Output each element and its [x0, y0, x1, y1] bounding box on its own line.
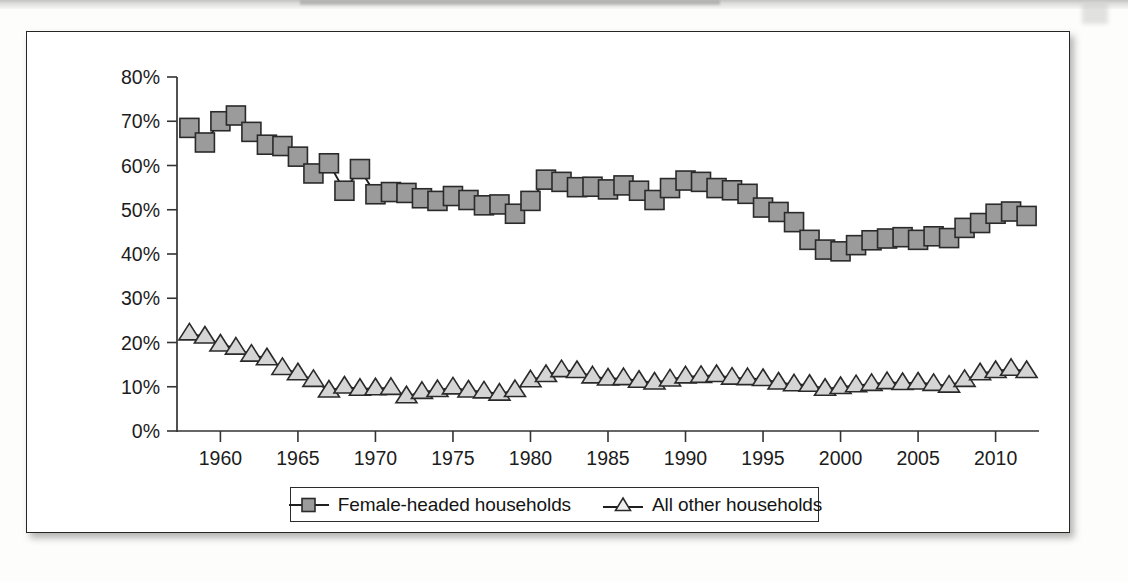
x-axis-tick-label: 2005: [896, 447, 940, 469]
plot-area: 0%10%20%30%40%50%60%70%80% 1960196519701…: [27, 32, 1071, 534]
data-point-marker: [319, 154, 338, 173]
data-point-marker: [335, 181, 354, 200]
x-axis-tick-label: 1965: [276, 447, 320, 469]
y-axis-tick-label: 0%: [132, 420, 160, 442]
data-point-marker: [753, 369, 774, 386]
open-triangle-marker-icon: [601, 495, 645, 515]
x-axis-tick-label: 2000: [819, 447, 863, 469]
legend-item-all-other-households: All other households: [601, 494, 822, 516]
y-axis-tick-label: 80%: [121, 66, 160, 88]
chart-figure-frame: 0%10%20%30%40%50%60%70%80% 1960196519701…: [26, 31, 1070, 533]
x-axis: 1960196519701975198019851990199520002005…: [177, 431, 1039, 469]
y-axis-tick-label: 50%: [121, 199, 160, 221]
x-axis-tick-label: 1975: [431, 447, 475, 469]
y-axis-tick-label: 20%: [121, 332, 160, 354]
data-point-marker: [799, 375, 820, 392]
scan-smudge-artifact: [300, 0, 720, 5]
series-female-headed-households: [180, 106, 1036, 261]
x-axis-tick-label: 1990: [664, 447, 708, 469]
data-point-marker: [442, 377, 463, 394]
x-axis-tick-label: 1980: [509, 447, 553, 469]
x-axis-tick-label: 1960: [199, 447, 243, 469]
y-axis-tick-label: 10%: [121, 376, 160, 398]
y-axis: 0%10%20%30%40%50%60%70%80%: [121, 66, 177, 442]
legend-label: Female-headed households: [338, 494, 571, 516]
filled-square-marker-icon: [287, 495, 331, 515]
series-all-other-households: [179, 323, 1037, 402]
scan-smudge-artifact: [1082, 2, 1108, 24]
data-point-marker: [521, 191, 540, 210]
data-point-marker: [195, 133, 214, 152]
x-axis-tick-label: 1995: [741, 447, 785, 469]
y-axis-tick-label: 70%: [121, 110, 160, 132]
data-point-marker: [380, 378, 401, 395]
legend-item-female-headed-households: Female-headed households: [287, 494, 571, 516]
data-point-marker: [785, 213, 804, 232]
y-axis-tick-label: 40%: [121, 243, 160, 265]
y-axis-tick-label: 60%: [121, 155, 160, 177]
data-series-group: [179, 106, 1037, 403]
x-axis-tick-label: 1970: [354, 447, 398, 469]
x-axis-tick-label: 2010: [974, 447, 1018, 469]
scanned-page: 0%10%20%30%40%50%60%70%80% 1960196519701…: [0, 0, 1128, 582]
y-axis-tick-label: 30%: [121, 287, 160, 309]
legend-label: All other households: [652, 494, 822, 516]
data-point-marker: [566, 361, 587, 378]
data-point-marker: [179, 323, 200, 340]
chart-legend: Female-headed households All other house…: [290, 487, 819, 522]
x-axis-tick-label: 1985: [586, 447, 630, 469]
data-point-marker: [1017, 206, 1036, 225]
data-point-marker: [350, 160, 369, 179]
line-chart: 0%10%20%30%40%50%60%70%80% 1960196519701…: [27, 32, 1071, 534]
